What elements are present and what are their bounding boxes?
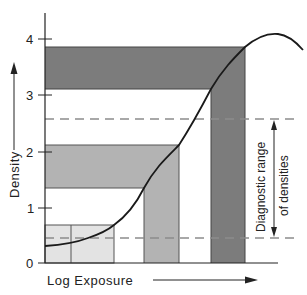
diagnostic-range-label-line1: Diagnostic range xyxy=(254,142,268,232)
x-axis-title: Log Exposure xyxy=(47,273,133,288)
y-axis-title-group: Density xyxy=(7,62,22,198)
arrow-up-icon xyxy=(271,120,277,130)
x-axis-title-group: Log Exposure xyxy=(47,273,258,288)
tick-label-3: 3 xyxy=(26,88,33,103)
tick-label-4: 4 xyxy=(26,32,33,47)
tick-label-0: 0 xyxy=(26,256,33,271)
diagnostic-range-label-line2: of densities xyxy=(277,155,291,216)
characteristic-curve-diagram: 4 3 2 1 0 Density Log Exposure Diagnosti… xyxy=(0,0,307,295)
tick-label-1: 1 xyxy=(27,201,34,216)
arrow-down-icon xyxy=(271,227,277,237)
arrow-right-icon xyxy=(245,277,258,284)
diagnostic-range-indicator: Diagnostic range of densities xyxy=(254,120,291,237)
tick-label-2: 2 xyxy=(26,145,33,160)
arrow-up-icon xyxy=(11,62,18,74)
y-axis-title: Density xyxy=(7,151,22,198)
